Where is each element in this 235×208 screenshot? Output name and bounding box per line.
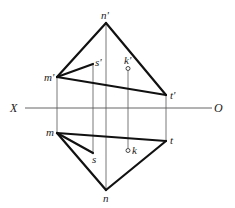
diagram-svg: X O n' m' t' s' k' m t s k n xyxy=(0,0,235,208)
label-s: s xyxy=(92,153,96,165)
edge-m-n xyxy=(57,133,106,190)
axis-label-x: X xyxy=(9,101,18,115)
label-m-prime: m' xyxy=(44,71,55,83)
label-k: k xyxy=(132,144,138,156)
edge-m-t xyxy=(57,133,166,141)
projection-diagram: X O n' m' t' s' k' m t s k n xyxy=(0,0,235,208)
label-t-prime: t' xyxy=(170,89,176,101)
label-t: t xyxy=(170,134,174,146)
label-n: n xyxy=(103,192,109,204)
edge-m-prime-t-prime xyxy=(57,77,166,95)
label-s-prime: s' xyxy=(95,56,102,68)
point-k-prime-marker xyxy=(126,67,130,71)
label-n-prime: n' xyxy=(101,9,110,21)
point-k-marker xyxy=(126,149,130,153)
axis-label-o: O xyxy=(214,101,223,115)
edge-n-prime-t-prime xyxy=(106,23,166,95)
label-m: m xyxy=(46,126,54,138)
label-k-prime: k' xyxy=(124,54,132,66)
